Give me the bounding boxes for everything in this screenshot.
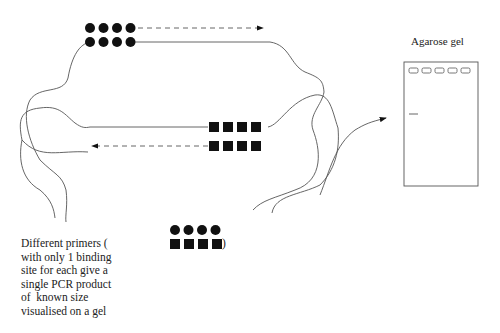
forward-primer-top [85,23,136,33]
forward-primer-bound [85,37,136,47]
caption-line: single PCR product [21,278,211,292]
caption-close-paren: ) [222,237,226,249]
caption: Different primers ( with only 1 binding … [21,237,211,319]
agarose-gel [404,62,478,186]
dna-strands [20,42,386,222]
caption-line: of known size [21,291,211,305]
caption-line: site for each give a [21,264,211,278]
reverse-primer-bound [209,122,261,132]
caption-line: visualised on a gel [21,305,211,319]
reverse-primer-bottom [209,141,261,151]
caption-line: Different primers ( [21,237,211,251]
caption-line: with only 1 binding [21,251,211,265]
gel-title: Agarose gel [411,35,464,47]
